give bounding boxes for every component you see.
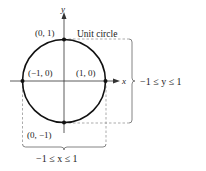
- unit-circle-diagram: y x Unit circle (0, 1) (−1, 0) (1, 0) (0…: [0, 0, 206, 171]
- point-bottom-label: (0, −1): [27, 130, 52, 140]
- point-left-label: (−1, 0): [28, 68, 53, 78]
- point-top-label: (0, 1): [35, 28, 55, 38]
- point-bottom: [62, 121, 66, 125]
- x-axis-arrow-icon: [113, 79, 120, 84]
- diagram-canvas: y x Unit circle (0, 1) (−1, 0) (1, 0) (0…: [0, 0, 206, 171]
- point-right-label: (1, 0): [76, 68, 96, 78]
- y-range-brace: [129, 39, 135, 123]
- y-axis-label: y: [60, 4, 65, 14]
- point-right: [104, 79, 108, 83]
- point-top: [62, 38, 66, 42]
- x-range-brace: [23, 144, 107, 150]
- x-axis-label: x: [121, 76, 126, 86]
- title-label: Unit circle: [77, 29, 117, 39]
- point-left: [21, 79, 25, 83]
- x-range-label: −1 ≤ x ≤ 1: [36, 153, 78, 164]
- y-range-label: −1 ≤ y ≤ 1: [140, 76, 182, 87]
